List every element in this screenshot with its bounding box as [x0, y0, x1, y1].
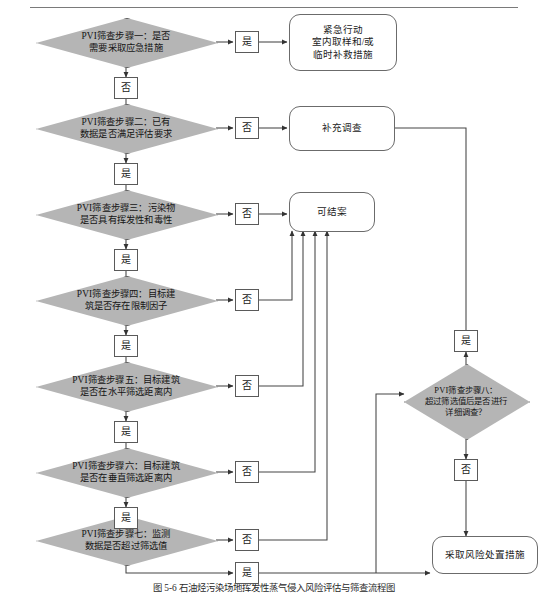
terminal-close-case-label: 可结案	[293, 206, 372, 219]
label-step5-no: 否	[235, 375, 259, 397]
terminal-supplementary: 补充调查	[289, 106, 395, 151]
label-step8-yes: 是	[454, 330, 478, 352]
decision-step-5: PVI筛查步骤五：目标建筑是否在水平筛选距离内	[36, 362, 216, 410]
label-step4-yes: 是	[114, 335, 138, 357]
terminal-emergency-label: 紧急行动室内取样和/或临时补救措施	[293, 24, 393, 62]
label-step2-yes: 是	[114, 163, 138, 185]
label-step2-no: 否	[235, 117, 259, 139]
label-step3-yes: 是	[114, 249, 138, 271]
decision-step-8: PVI筛查步骤八：超过筛选值后是否进行详细调查？	[404, 364, 528, 438]
terminal-risk-measures-label: 采取风险处置措施	[436, 549, 534, 562]
label-step7-yes: 是	[235, 562, 259, 584]
label-step6-yes: 是	[114, 507, 138, 529]
decision-step-1-label: PVI筛查步骤一：是否需要采取应急措施	[49, 30, 204, 54]
terminal-supplementary-label: 补充调查	[293, 122, 391, 135]
decision-step-4: PVI筛查步骤四：目标建筑是否存在限制因子	[36, 276, 216, 324]
decision-step-4-label: PVI筛查步骤四：目标建筑是否存在限制因子	[49, 288, 204, 312]
terminal-emergency: 紧急行动室内取样和/或临时补救措施	[289, 14, 397, 71]
figure-canvas: PVI筛查步骤一：是否需要采取应急措施 是 否 紧急行动室内取样和/或临时补救措…	[0, 0, 548, 601]
label-step1-no: 否	[114, 77, 138, 99]
label-step3-no: 否	[235, 203, 259, 225]
label-step1-yes: 是	[235, 31, 259, 53]
decision-step-6: PVI筛查步骤六：目标建筑是否在垂直筛选距离内	[36, 448, 216, 496]
label-step5-yes: 是	[114, 421, 138, 443]
decision-step-1: PVI筛查步骤一：是否需要采取应急措施	[36, 18, 216, 66]
decision-step-6-label: PVI筛查步骤六：目标建筑是否在垂直筛选距离内	[49, 460, 204, 484]
decision-step-5-label: PVI筛查步骤五：目标建筑是否在水平筛选距离内	[49, 374, 204, 398]
decision-step-2: PVI筛查步骤二：已有数据是否满足评估要求	[36, 104, 216, 152]
figure-caption: 图 5-6 石油烃污染场地挥发性蒸气侵入风险评估与筛查流程图	[0, 582, 548, 595]
label-step7-no: 否	[235, 529, 259, 551]
label-step8-no: 否	[454, 459, 478, 481]
decision-step-8-label: PVI筛查步骤八：超过筛选值后是否进行详细调查？	[409, 385, 523, 418]
terminal-risk-measures: 采取风险处置措施	[432, 536, 538, 574]
decision-step-7-label: PVI筛查步骤七：监测数据是否超过筛选值	[49, 528, 204, 552]
terminal-close-case: 可结案	[289, 192, 375, 232]
label-step4-no: 否	[235, 289, 259, 311]
decision-step-3-label: PVI筛查步骤三：污染物是否具有挥发性和毒性	[49, 202, 204, 226]
decision-step-2-label: PVI筛查步骤二：已有数据是否满足评估要求	[49, 116, 204, 140]
decision-step-3: PVI筛查步骤三：污染物是否具有挥发性和毒性	[36, 190, 216, 238]
label-step6-no: 否	[235, 461, 259, 483]
